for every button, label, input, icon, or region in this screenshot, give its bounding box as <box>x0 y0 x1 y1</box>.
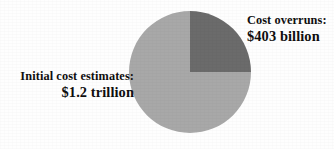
pie-chart-graphic <box>129 11 251 133</box>
slice-label-cost-overruns-title: Cost overruns: <box>247 13 334 28</box>
slice-label-initial-cost-estimates: Initial cost estimates: $1.2 trillion <box>6 69 134 102</box>
pie-chart-figure: Initial cost estimates: $1.2 trillion Co… <box>0 0 334 149</box>
pie-svg <box>129 11 251 133</box>
slice-label-initial-cost-estimates-title: Initial cost estimates: <box>6 69 134 84</box>
slice-label-cost-overruns: Cost overruns: $403 billion <box>247 13 334 46</box>
slice-label-initial-cost-estimates-value: $1.2 trillion <box>6 84 134 102</box>
slice-label-cost-overruns-value: $403 billion <box>247 28 334 46</box>
pie-slice-cost-overruns[interactable] <box>190 11 251 72</box>
